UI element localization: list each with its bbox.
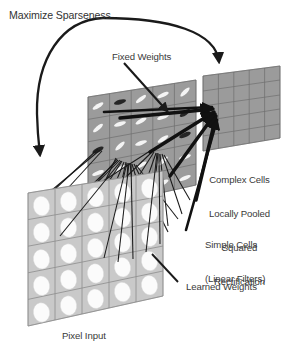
- diagram-canvas: Maximize Sparseness Fixed Weights Comple…: [0, 0, 295, 358]
- label-fixed-weights: Fixed Weights: [112, 51, 171, 62]
- label-maximize-sparseness: Maximize Sparseness: [9, 10, 111, 21]
- label-complex-cells-line1: Complex Cells: [209, 174, 270, 185]
- label-pixel-input: Pixel Input: [62, 330, 106, 341]
- pixel-input-plane: [28, 171, 163, 326]
- label-simple-cells-line1: Simple Cells: [205, 239, 265, 250]
- label-learned-weights: Learned Weights: [186, 281, 257, 292]
- label-simple-cells: Simple Cells (Linear Filters): [205, 216, 265, 307]
